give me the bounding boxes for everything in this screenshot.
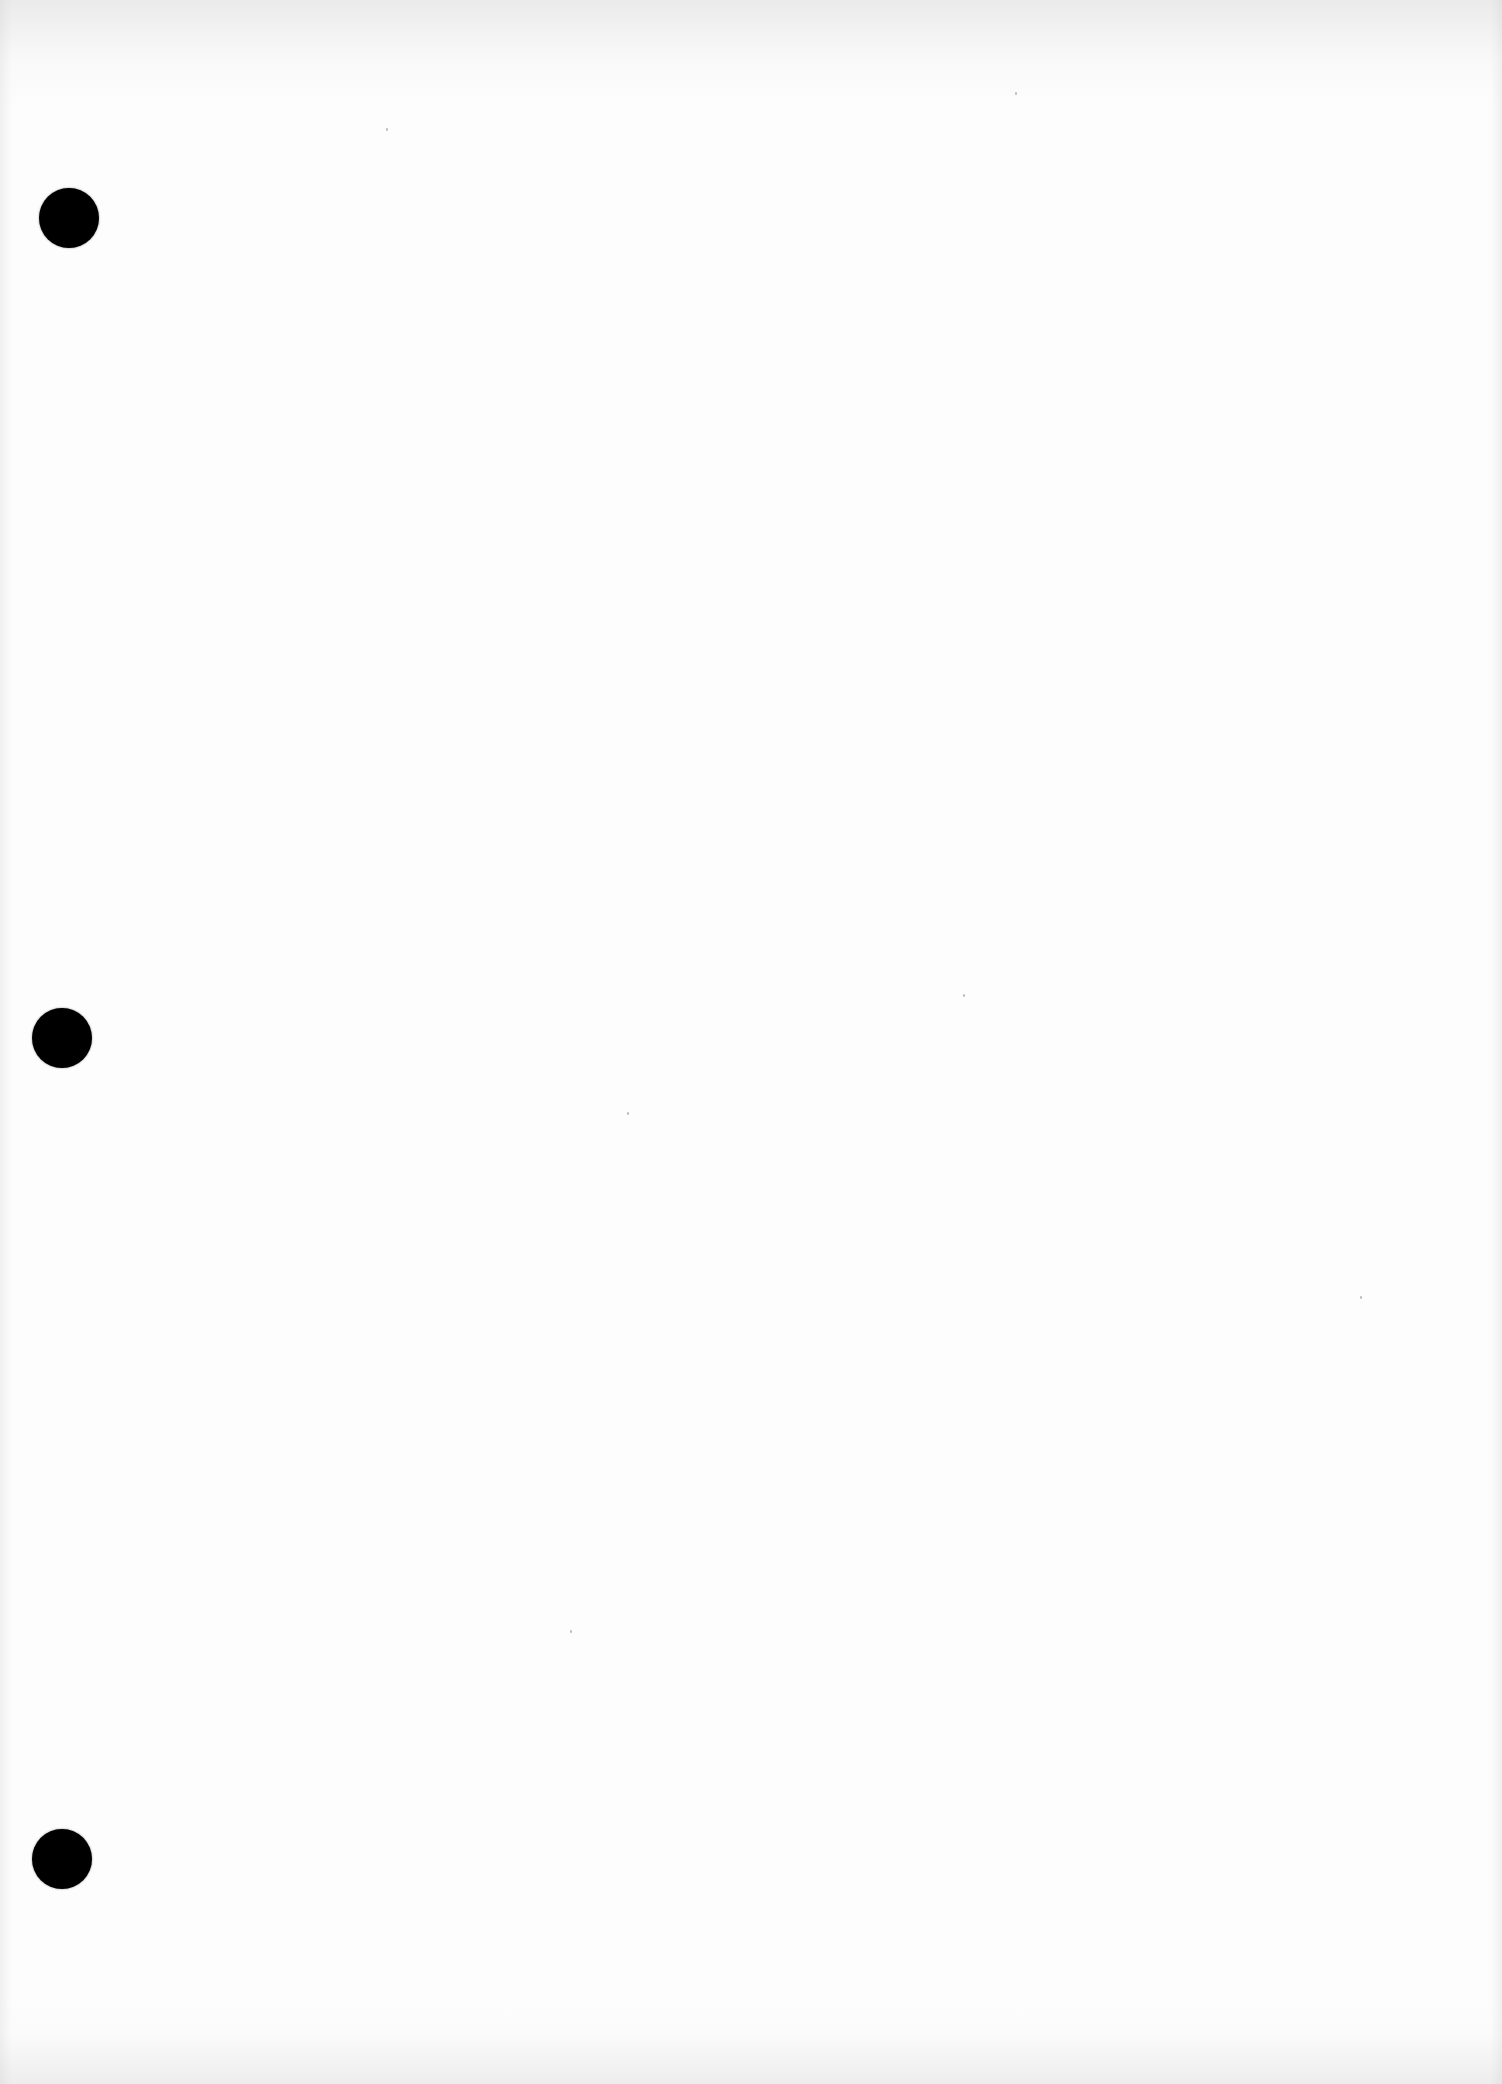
scan-speck bbox=[1015, 92, 1017, 95]
scan-speck bbox=[1360, 1296, 1362, 1299]
scan-speck bbox=[386, 128, 388, 131]
blank-page bbox=[0, 0, 1502, 2084]
scan-speck bbox=[627, 1112, 629, 1115]
scan-speck bbox=[570, 1630, 572, 1633]
punch-hole-top bbox=[39, 188, 99, 248]
punch-hole-bottom bbox=[32, 1829, 92, 1889]
scan-speck bbox=[963, 994, 965, 997]
punch-hole-middle bbox=[32, 1008, 92, 1068]
